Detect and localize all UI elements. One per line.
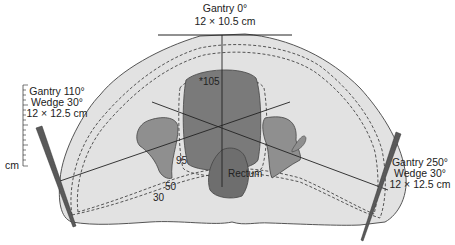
anterior-gantry-label: Gantry 0° <box>203 2 247 14</box>
anterior-field-size-label: 12 × 10.5 cm <box>195 15 256 27</box>
max-dose-label: *105 <box>199 76 220 87</box>
isodose-95-label: 95 <box>176 155 188 166</box>
treatment-plan-diagram: cm Gantry 0° 12 × 10.5 cm Gantry 110° We… <box>0 0 455 245</box>
left-field-size-label: 12 × 12.5 cm <box>27 107 88 119</box>
right-field-size-label: 12 × 12.5 cm <box>390 178 451 190</box>
cm-scale-bar <box>23 85 28 166</box>
rectum-label: Rectum <box>228 168 262 179</box>
isodose-50-label: 50 <box>165 181 177 192</box>
scale-unit-label: cm <box>5 159 19 171</box>
isodose-30-label: 30 <box>153 192 165 203</box>
